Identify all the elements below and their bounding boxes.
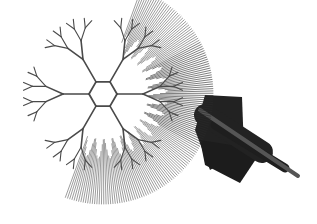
sparse-tree-branches	[24, 18, 183, 169]
tree-fractal-figure	[0, 0, 317, 224]
dark-spike-cluster	[195, 95, 298, 183]
dense-fan-branches	[65, 0, 213, 204]
